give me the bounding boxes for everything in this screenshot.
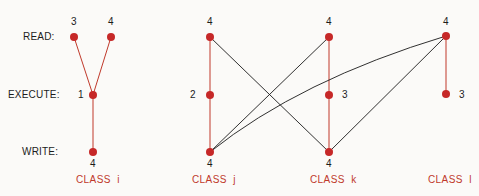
lattice-diagram <box>0 0 479 196</box>
node-label: 4 <box>108 16 114 27</box>
node-label: 4 <box>207 158 213 169</box>
node-label: 1 <box>78 89 84 100</box>
node-label: 4 <box>443 16 449 27</box>
class-label-l: CLASS l <box>428 174 472 185</box>
class-label-k: CLASS k <box>310 174 357 185</box>
node-label: 4 <box>90 158 96 169</box>
node-label: 4 <box>207 16 213 27</box>
class-label-i: CLASS i <box>76 174 120 185</box>
node-label: 4 <box>326 158 332 169</box>
node-label: 2 <box>190 89 196 100</box>
nodes <box>70 32 450 156</box>
node-label: 3 <box>71 16 77 27</box>
node-label: 3 <box>342 89 348 100</box>
node-label: 3 <box>459 89 465 100</box>
class-label-j: CLASS j <box>192 174 236 185</box>
node-label: 4 <box>326 16 332 27</box>
